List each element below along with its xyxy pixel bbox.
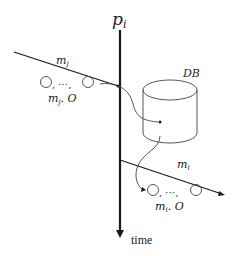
- database-label: DB: [182, 67, 200, 80]
- outgoing-arrow-head-icon: [218, 191, 225, 196]
- db-entry-point-icon: [159, 121, 162, 124]
- db-bottom-curve: [143, 133, 197, 143]
- outgoing-objects-label: mi. O: [155, 200, 184, 214]
- objects-ellipsis: , ⋯,: [52, 79, 72, 90]
- incoming-message-label: mj: [56, 54, 69, 68]
- outgoing-message: mi , ⋯, mi. O: [120, 158, 225, 214]
- object-circle-icon: [41, 77, 52, 88]
- db-top-ellipse: [143, 80, 197, 100]
- object-circle-icon: [191, 185, 202, 196]
- time-label: time: [131, 233, 152, 247]
- objects-ellipsis: , ⋯,: [159, 187, 179, 198]
- diagram-canvas: pi time mj , ⋯, mj. O DB mi: [0, 0, 236, 256]
- database-cylinder: DB: [143, 67, 200, 143]
- process-timeline: [116, 30, 124, 238]
- process-label: pi: [112, 9, 126, 31]
- timeline-arrow-icon: [116, 230, 124, 238]
- object-circle-icon: [83, 77, 94, 88]
- load-arrow-head-icon: [141, 187, 146, 192]
- incoming-message: mj , ⋯, mj. O: [14, 52, 120, 106]
- incoming-objects-label: mj. O: [48, 92, 77, 106]
- load-objects-arrow: [136, 136, 160, 190]
- object-circle-icon: [148, 185, 159, 196]
- outgoing-message-label: mi: [177, 158, 190, 172]
